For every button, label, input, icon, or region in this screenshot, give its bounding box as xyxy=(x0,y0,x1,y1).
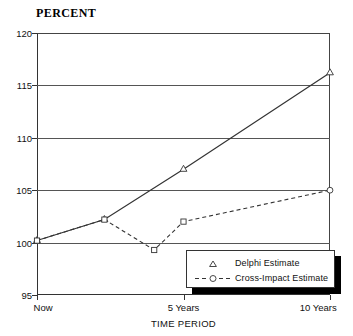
y-tick-label-105: 105 xyxy=(16,185,32,196)
page-title: PERCENT xyxy=(36,6,96,21)
legend-box: Delphi Estimate Cross-Impact Estimate xyxy=(186,250,335,288)
data-point-delphi-3 xyxy=(327,69,334,75)
chart-container: PERCENT 120 115 110 105 100 95 Now 5 Yea… xyxy=(0,0,353,336)
y-tick-label-100: 100 xyxy=(16,237,32,248)
y-tick-label-95: 95 xyxy=(21,290,32,301)
data-point-cross-impact-2 xyxy=(152,247,157,252)
series-line-delphi-estimate xyxy=(37,73,330,241)
x-axis-title: TIME PERIOD xyxy=(37,318,330,329)
circle-marker-icon xyxy=(191,271,235,284)
y-tick-label-115: 115 xyxy=(17,80,32,91)
legend-item-cross-impact-estimate[interactable]: Cross-Impact Estimate xyxy=(187,270,334,285)
legend-label-delphi-estimate: Delphi Estimate xyxy=(235,258,300,268)
data-point-cross-impact-1 xyxy=(102,217,107,222)
legend: Delphi Estimate Cross-Impact Estimate xyxy=(186,250,335,288)
data-point-cross-impact-0 xyxy=(34,238,39,243)
y-tick-label-120: 120 xyxy=(16,28,32,39)
y-tick-label-110: 110 xyxy=(17,132,32,143)
x-tick-mark-now xyxy=(37,295,38,300)
data-point-cross-impact-3 xyxy=(181,219,186,224)
x-tick-mark-5-years xyxy=(184,295,185,300)
legend-label-cross-impact-estimate: Cross-Impact Estimate xyxy=(235,273,328,283)
legend-item-delphi-estimate[interactable]: Delphi Estimate xyxy=(187,255,334,270)
x-tick-label-5-years: 5 Years xyxy=(168,302,200,313)
x-tick-label-10-years: 10 Years xyxy=(300,302,337,313)
x-tick-mark-10-years xyxy=(330,295,331,300)
x-tick-label-now: Now xyxy=(34,302,53,313)
triangle-marker-icon xyxy=(191,256,235,269)
data-point-cross-impact-4 xyxy=(327,187,333,193)
